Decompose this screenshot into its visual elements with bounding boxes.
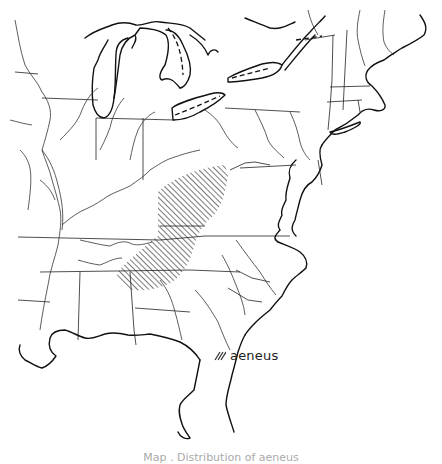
- map-caption: Map . Distribution of aeneus: [0, 451, 442, 464]
- great-lakes: [85, 16, 325, 120]
- gulf-coastline: [19, 330, 200, 368]
- atlantic-coastline: [178, 15, 426, 439]
- legend-label-aeneus: aeneus: [230, 348, 278, 363]
- map-legend: aeneus: [214, 348, 278, 363]
- hatch-icon: [214, 351, 226, 361]
- range-area-aeneus: [117, 165, 228, 290]
